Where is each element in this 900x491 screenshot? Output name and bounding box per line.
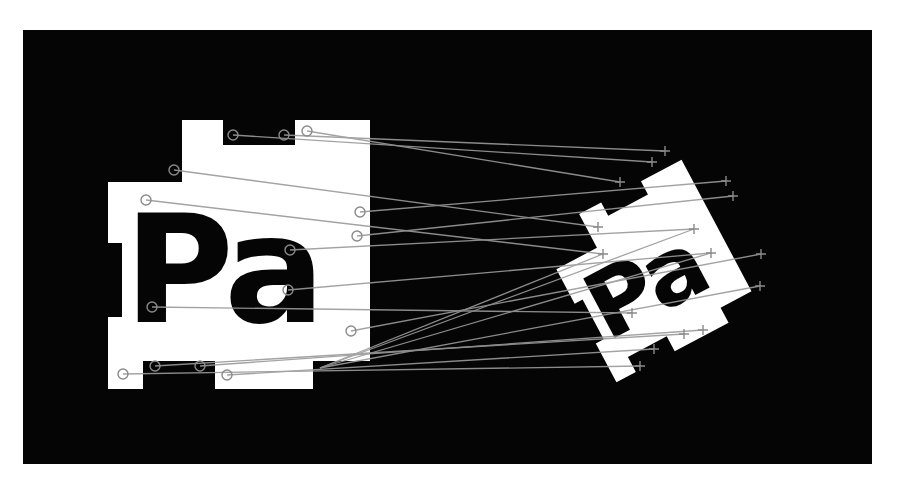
keypoint-matching-figure: Pa Pa	[0, 0, 900, 491]
